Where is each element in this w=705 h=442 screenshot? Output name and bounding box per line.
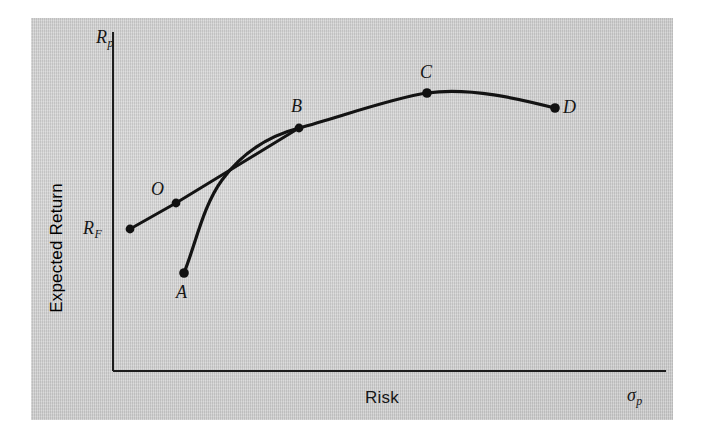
y-axis-symbol-subscript: p — [107, 36, 113, 50]
risk-free-rate-label: RF — [83, 219, 102, 240]
risk-free-rate-base: R — [83, 218, 94, 238]
x-axis-title: Risk — [365, 389, 399, 406]
figure-container: Rp RF Expected Return Risk σp O A B C D — [0, 0, 705, 442]
point-marker-c — [422, 88, 432, 98]
y-axis-symbol-base: R — [96, 27, 107, 47]
x-axis-symbol-base: σ — [627, 385, 636, 405]
point-label-d: D — [563, 98, 576, 116]
risk-free-rate-subscript: F — [94, 227, 101, 241]
point-marker-o — [172, 199, 181, 208]
point-marker-rf — [126, 225, 135, 234]
y-axis-title: Expected Return — [47, 183, 67, 313]
point-marker-b — [295, 124, 304, 133]
efficient-frontier-curve — [184, 91, 555, 273]
x-axis-symbol-subscript: p — [636, 394, 642, 408]
point-label-a: A — [176, 283, 187, 301]
point-label-c: C — [420, 63, 432, 81]
point-label-b: B — [291, 97, 302, 115]
plot-area — [0, 0, 705, 442]
y-axis-symbol: Rp — [96, 28, 113, 49]
x-axis-symbol: σp — [627, 386, 642, 407]
point-marker-a — [179, 268, 189, 278]
point-label-o: O — [151, 180, 164, 198]
point-marker-d — [550, 103, 560, 113]
